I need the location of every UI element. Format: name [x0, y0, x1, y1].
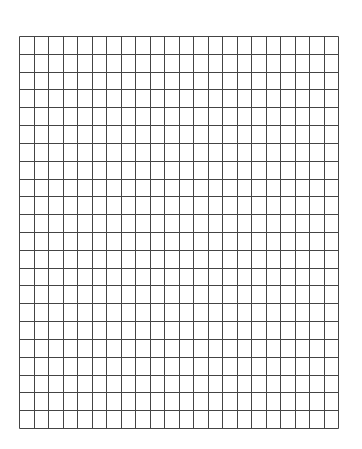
grid — [19, 36, 338, 428]
grid-lines — [19, 36, 339, 429]
graph-paper-page — [0, 0, 362, 449]
